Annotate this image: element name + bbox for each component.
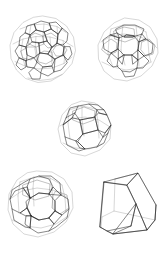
- mid-edges: [115, 173, 156, 205]
- shape-truncated-dodecahedron: [6, 168, 76, 242]
- back-edges: [101, 179, 156, 228]
- shape-truncated-octahedron: [56, 98, 114, 160]
- shape-truncated-tetrahedron: [92, 168, 162, 242]
- shape-truncated-cuboctahedron: [96, 16, 160, 86]
- front-edges: [10, 176, 69, 233]
- front-edges: [103, 25, 153, 77]
- mid-edges: [21, 33, 67, 64]
- mid-edges: [102, 27, 155, 56]
- front-edges: [100, 173, 156, 234]
- polyhedra-figure: [0, 0, 166, 253]
- front-edges: [63, 104, 111, 151]
- back-edges: [10, 16, 76, 83]
- shape-truncated-icosahedron: [8, 14, 78, 86]
